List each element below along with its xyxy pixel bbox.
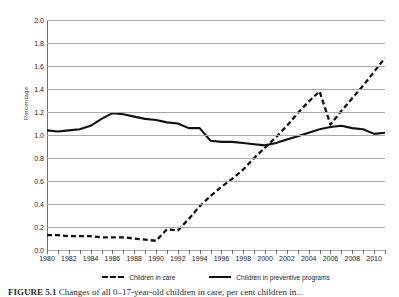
x-tick-label: 1994 <box>192 255 208 262</box>
x-minor-tick <box>178 250 179 254</box>
x-minor-tick <box>80 250 81 254</box>
x-tick-label: 1990 <box>148 255 164 262</box>
x-minor-tick <box>112 250 113 254</box>
x-minor-tick <box>243 250 244 254</box>
caption-text: Changes of all 0–17-year-old children in… <box>59 287 303 297</box>
legend-entry-preventive-programs: Children in preventive programs <box>209 274 329 281</box>
y-tick-label: 0.6 <box>4 178 44 185</box>
x-tick-label: 1980 <box>39 255 55 262</box>
x-minor-tick <box>102 250 103 254</box>
y-tick-label: 2.0 <box>4 17 44 24</box>
x-tick-label: 2010 <box>366 255 382 262</box>
x-minor-tick <box>211 250 212 254</box>
gridline <box>47 89 385 90</box>
chart-legend: Children in care Children in preventive … <box>47 270 385 284</box>
x-tick-label: 2006 <box>323 255 339 262</box>
x-minor-tick <box>352 250 353 254</box>
x-tick-label: 2004 <box>301 255 317 262</box>
y-tick-label: 1.0 <box>4 132 44 139</box>
x-minor-tick <box>385 250 386 254</box>
y-tick-label: 1.2 <box>4 109 44 116</box>
x-minor-tick <box>47 250 48 254</box>
gridline <box>47 135 385 136</box>
x-minor-tick <box>363 250 364 254</box>
x-minor-tick <box>221 250 222 254</box>
dashed-line-swatch-icon <box>102 276 124 278</box>
x-minor-tick <box>276 250 277 254</box>
x-tick-label: 1986 <box>105 255 121 262</box>
x-minor-tick <box>145 250 146 254</box>
y-axis-tick-labels: 2.01.81.61.41.21.00.80.60.40.20.0 <box>0 20 44 250</box>
x-tick-label: 2008 <box>344 255 360 262</box>
x-minor-tick <box>91 250 92 254</box>
x-minor-tick <box>374 250 375 254</box>
x-tick-label: 1988 <box>126 255 142 262</box>
x-tick-label: 1984 <box>83 255 99 262</box>
y-tick-label: 1.4 <box>4 86 44 93</box>
x-minor-tick <box>58 250 59 254</box>
legend-label: Children in preventive programs <box>236 274 329 281</box>
x-axis-tick-labels: 1980198219841986198819901992199419961998… <box>47 255 385 267</box>
legend-entry-children-in-care: Children in care <box>102 274 175 281</box>
y-tick-label: 0.0 <box>4 247 44 254</box>
gridline <box>47 20 385 21</box>
gridline <box>47 250 385 251</box>
plot-area <box>47 20 385 250</box>
x-minor-tick <box>254 250 255 254</box>
gridline <box>47 158 385 159</box>
x-minor-tick <box>232 250 233 254</box>
y-tick-label: 1.8 <box>4 40 44 47</box>
x-tick-label: 2002 <box>279 255 295 262</box>
x-tick-label: 1996 <box>214 255 230 262</box>
x-minor-tick <box>134 250 135 254</box>
x-minor-tick <box>298 250 299 254</box>
y-tick-label: 0.8 <box>4 155 44 162</box>
gridline <box>47 227 385 228</box>
x-tick-label: 2000 <box>257 255 273 262</box>
x-tick-label: 1998 <box>235 255 251 262</box>
y-tick-label: 0.4 <box>4 201 44 208</box>
legend-label: Children in care <box>129 274 175 281</box>
x-minor-tick <box>309 250 310 254</box>
figure-number: FIGURE 5.1 <box>8 287 57 297</box>
series-line <box>47 58 385 241</box>
x-minor-tick <box>156 250 157 254</box>
gridline <box>47 43 385 44</box>
gridline <box>47 66 385 67</box>
x-tick-label: 1992 <box>170 255 186 262</box>
x-minor-tick <box>265 250 266 254</box>
y-tick-label: 1.6 <box>4 63 44 70</box>
gridline <box>47 112 385 113</box>
x-tick-label: 1982 <box>61 255 77 262</box>
x-minor-tick <box>341 250 342 254</box>
x-minor-tick <box>330 250 331 254</box>
x-minor-tick <box>189 250 190 254</box>
figure-caption: FIGURE 5.1 Changes of all 0–17-year-old … <box>8 287 394 297</box>
x-minor-tick <box>320 250 321 254</box>
y-tick-label: 0.2 <box>4 224 44 231</box>
solid-line-swatch-icon <box>209 276 231 278</box>
x-minor-tick <box>167 250 168 254</box>
gridline <box>47 181 385 182</box>
gridline <box>47 204 385 205</box>
x-minor-tick <box>200 250 201 254</box>
x-minor-tick <box>123 250 124 254</box>
x-minor-tick <box>69 250 70 254</box>
x-minor-tick <box>287 250 288 254</box>
